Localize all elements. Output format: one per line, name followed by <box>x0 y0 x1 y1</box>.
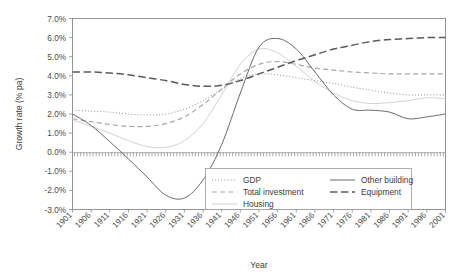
y-tick-label: -1.0% <box>45 167 66 176</box>
legend-label-gdp: GDP <box>243 175 262 185</box>
y-tick-label: 5.0% <box>47 53 66 62</box>
x-axis-title-text: Year <box>250 260 268 270</box>
y-tick-label: 6.0% <box>47 34 66 43</box>
y-tick-label: -3.0% <box>45 206 66 215</box>
y-tick-label: 3.0% <box>47 91 66 100</box>
y-tick-label: 0.0% <box>47 148 66 157</box>
chart-container: Growth rate (% pa) 7.0%6.0%5.0%4.0%3.0%2… <box>0 0 468 278</box>
legend-label-housing: Housing <box>243 199 274 209</box>
chart-legend: GDPTotal investmentHousingOther building… <box>206 169 414 210</box>
growth-rate-line-chart: Growth rate (% pa) 7.0%6.0%5.0%4.0%3.0%2… <box>0 0 468 278</box>
chart-background <box>0 0 468 278</box>
y-tick-label: -2.0% <box>45 186 66 195</box>
y-tick-label: 7.0% <box>47 15 66 24</box>
y-axis-title: Growth rate (% pa) <box>14 78 24 151</box>
legend-label-total-investment: Total investment <box>243 187 304 197</box>
y-tick-label: 1.0% <box>47 129 66 138</box>
legend-label-equipment: Equipment <box>361 187 402 197</box>
legend-label-other-building: Other building <box>361 175 413 185</box>
y-axis-title-text: Growth rate (% pa) <box>14 78 24 151</box>
y-tick-label: 2.0% <box>47 110 66 119</box>
y-tick-label: 4.0% <box>47 72 66 81</box>
